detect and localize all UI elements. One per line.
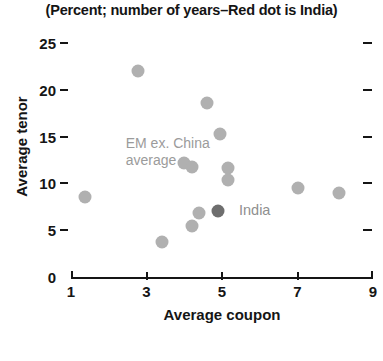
y-tick-label-10: 10: [22, 175, 56, 192]
y-tick-label-15: 15: [22, 128, 56, 145]
y-tick-label-25: 25: [22, 35, 56, 52]
x-tick-mark-7: [297, 272, 299, 280]
x-tick-label-1: 1: [56, 283, 86, 300]
data-point: [214, 127, 227, 140]
data-point: [333, 186, 346, 199]
x-tick-mark-3: [146, 272, 148, 280]
data-point: [155, 236, 168, 249]
annotation-em-ex-china-average: EM ex. China average: [126, 135, 210, 169]
x-tick-label-3: 3: [132, 283, 162, 300]
data-point: [132, 65, 145, 78]
x-axis-left-cap: [71, 271, 73, 278]
x-tick-label-7: 7: [283, 283, 313, 300]
data-point: [221, 173, 234, 186]
y-tick-mark-left-25: [60, 42, 68, 44]
x-tick-label-9: 9: [358, 283, 383, 300]
y-tick-label-20: 20: [22, 81, 56, 98]
y-tick-mark-left-20: [60, 89, 68, 91]
chart-title: (Percent; number of years–Red dot is Ind…: [0, 2, 383, 18]
x-tick-label-5: 5: [207, 283, 237, 300]
y-tick-mark-left-15: [60, 136, 68, 138]
annotation-india: India: [239, 202, 270, 219]
data-point: [78, 190, 91, 203]
y-tick-label-5: 5: [22, 222, 56, 239]
data-point: [193, 207, 206, 220]
y-tick-mark-left-5: [60, 229, 68, 231]
data-point-india: [212, 205, 225, 218]
data-point: [291, 182, 304, 195]
data-point: [200, 96, 213, 109]
data-point: [185, 219, 198, 232]
plot-area: [71, 43, 373, 277]
scatter-chart: (Percent; number of years–Red dot is Ind…: [0, 0, 383, 361]
y-tick-mark-left-10: [60, 182, 68, 184]
x-axis-title: Average coupon: [71, 306, 373, 323]
y-tick-label-0: 0: [22, 269, 56, 286]
x-axis-right-cap: [371, 271, 373, 278]
x-tick-mark-5: [221, 272, 223, 280]
